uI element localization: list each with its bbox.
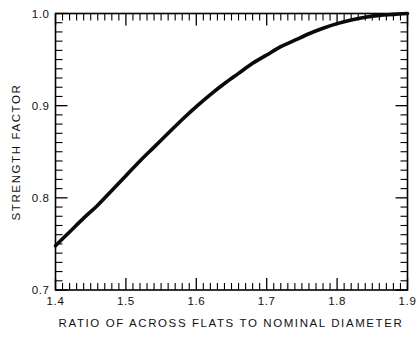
x-tick-label: 1.9 [399,295,417,307]
x-tick-label: 1.7 [258,295,276,307]
y-tick-label: 0.9 [32,100,50,112]
y-tick-label: 1.0 [32,8,50,20]
x-axis-title: RATIO OF ACROSS FLATS TO NOMINAL DIAMETE… [59,317,404,329]
x-tick-label: 1.8 [328,295,346,307]
x-axis-ticks [56,14,408,291]
y-axis-tick-labels: 0.70.80.91.0 [32,8,50,297]
strength-factor-line-chart: 1.41.51.61.71.81.9 0.70.80.91.0 RATIO OF… [0,0,420,339]
chart-figure: 1.41.51.61.71.81.9 0.70.80.91.0 RATIO OF… [0,0,420,339]
y-tick-label: 0.8 [32,192,50,204]
y-tick-label: 0.7 [32,284,50,296]
y-axis-ticks [56,14,408,291]
x-axis-tick-labels: 1.41.51.61.71.81.9 [47,295,417,307]
x-tick-label: 1.5 [117,295,135,307]
y-axis-title: STRENGTH FACTOR [10,84,22,221]
data-series-line [56,14,408,246]
x-tick-label: 1.4 [47,295,65,307]
plot-frame [56,14,408,291]
x-tick-label: 1.6 [187,295,205,307]
